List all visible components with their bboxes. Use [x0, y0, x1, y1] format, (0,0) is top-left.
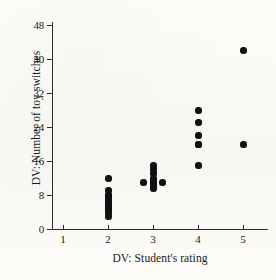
x-axis-tick-label: 1: [55, 233, 71, 245]
data-point: [195, 132, 202, 139]
y-axis-tick-label-text: 0: [22, 224, 44, 235]
data-point: [240, 47, 247, 54]
x-axis-tick: [108, 225, 109, 230]
y-axis-tick: [47, 25, 53, 26]
data-point: [105, 175, 112, 182]
x-axis-tick-label: 3: [145, 233, 161, 245]
y-axis-tick: [47, 59, 53, 60]
data-point: [150, 185, 157, 192]
data-point: [195, 107, 202, 114]
x-axis-tick: [63, 225, 64, 230]
y-axis-tick-label: 0: [20, 224, 44, 235]
y-axis-line: [52, 22, 53, 230]
data-point: [140, 179, 147, 186]
y-axis-tick: [47, 229, 53, 230]
x-axis-tick: [198, 225, 199, 230]
data-point: [195, 141, 202, 148]
data-point: [159, 179, 166, 186]
plot-area: 081624324048 12345 DV: Number of toy swi…: [0, 0, 276, 280]
y-axis-tick: [47, 127, 53, 128]
data-point: [195, 162, 202, 169]
y-axis-title: DV: Number of toy switches: [30, 18, 42, 218]
data-point: [195, 119, 202, 126]
data-point: [240, 141, 247, 148]
y-axis-tick: [47, 161, 53, 162]
x-axis-line: [52, 229, 268, 230]
figure-scatter-plot: 081624324048 12345 DV: Number of toy swi…: [0, 0, 276, 280]
x-axis-title: DV: Student's rating: [52, 252, 268, 265]
x-axis-tick-label: 5: [235, 233, 251, 245]
y-axis-tick: [47, 93, 53, 94]
x-axis-tick: [153, 225, 154, 230]
x-axis-tick: [243, 225, 244, 230]
data-point: [105, 213, 112, 220]
x-axis-tick-label: 2: [100, 233, 116, 245]
x-axis-tick-label: 4: [190, 233, 206, 245]
y-axis-tick: [47, 195, 53, 196]
